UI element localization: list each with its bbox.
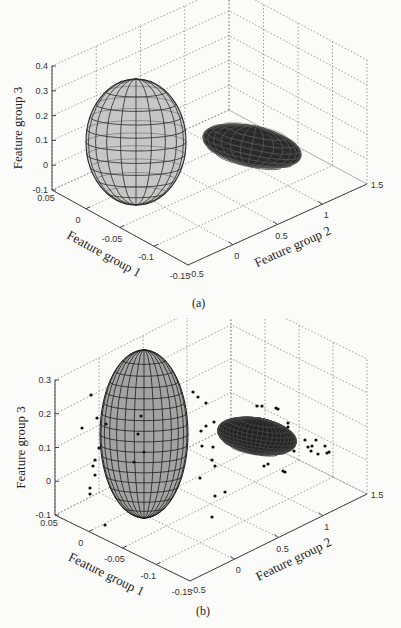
x-axis-ticks: 0.050-0.05-0.1-0.15 [37,193,190,281]
svg-text:1: 1 [324,210,329,220]
svg-text:-0.5: -0.5 [188,269,204,279]
ellipsoid-class1 [86,79,186,205]
svg-text:0.3: 0.3 [35,86,48,96]
svg-text:0: 0 [75,215,80,225]
svg-text:-0.1: -0.1 [138,252,154,262]
svg-text:0: 0 [234,251,239,261]
svg-text:-0.05: -0.05 [102,234,123,244]
svg-text:0.2: 0.2 [35,111,48,121]
y-axis-ticks: -0.500.511.5 [190,490,383,595]
svg-text:0.05: 0.05 [40,518,58,528]
svg-text:0.05: 0.05 [37,193,55,203]
y-axis-ticks: -0.500.511.5 [188,180,383,279]
caption-b: (b) [196,604,210,619]
svg-text:0: 0 [78,538,83,548]
svg-text:0.5: 0.5 [275,231,288,241]
z-axis-label: Feature group 3 [13,406,28,488]
svg-text:1.5: 1.5 [371,490,384,500]
svg-text:-0.5: -0.5 [190,585,206,595]
svg-text:-0.15: -0.15 [170,271,191,281]
y-axis-label: Feature group 2 [253,534,333,584]
chart-a-plot: -0.100.10.20.30.40.050-0.05-0.1-0.15-0.5… [0,0,401,318]
svg-text:0.1: 0.1 [35,135,48,145]
chart-panel-b: -0.100.10.20.30.050-0.05-0.1-0.15-0.500.… [0,318,401,628]
svg-text:-0.1: -0.1 [140,571,156,581]
svg-text:0.3: 0.3 [38,375,51,385]
svg-text:0: 0 [43,160,48,170]
chart-b-plot: -0.100.10.20.30.050-0.05-0.1-0.15-0.500.… [0,318,401,628]
svg-text:0: 0 [46,476,51,486]
svg-text:1: 1 [324,522,329,532]
chart-panel-a: -0.100.10.20.30.40.050-0.05-0.1-0.15-0.5… [0,0,401,318]
svg-text:-0.05: -0.05 [104,554,125,564]
caption-a: (a) [192,296,205,311]
svg-text:1.5: 1.5 [371,180,384,190]
svg-text:0.1: 0.1 [38,443,51,453]
svg-text:-0.15: -0.15 [172,587,193,597]
svg-text:0.4: 0.4 [35,61,48,71]
svg-text:0.2: 0.2 [38,409,51,419]
ellipsoid-class1 [100,350,188,518]
y-axis-label: Feature group 2 [252,223,333,271]
svg-text:0: 0 [236,565,241,575]
svg-text:0.5: 0.5 [276,544,289,554]
ellipsoid-class2 [199,115,306,177]
z-axis-label: Feature group 3 [10,87,25,169]
